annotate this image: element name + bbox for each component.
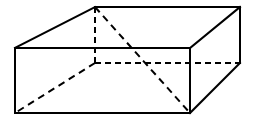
rectangular-prism-drawing [0, 0, 255, 123]
figure-container [0, 0, 255, 123]
